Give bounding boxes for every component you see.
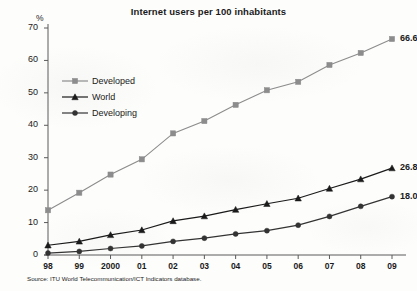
data-point-world — [389, 165, 395, 171]
data-point-developed — [389, 36, 394, 41]
data-point-developed — [45, 208, 50, 213]
legend-swatch-circle-icon — [62, 107, 88, 119]
x-axis-tick-label: 2000 — [101, 261, 120, 271]
y-axis-tick-label: 70 — [14, 22, 38, 32]
x-axis-tick-label: 99 — [75, 261, 84, 271]
data-point-developed — [170, 131, 175, 136]
y-axis-tick-label: 40 — [14, 119, 38, 129]
x-axis-tick-label: 09 — [387, 261, 396, 271]
data-point-developed — [139, 157, 144, 162]
legend-item-developed[interactable]: Developed — [62, 73, 137, 89]
chart-legend: DevelopedWorldDeveloping — [62, 73, 137, 121]
legend-item-developing[interactable]: Developing — [62, 105, 137, 121]
x-axis-tick-label: 02 — [168, 261, 177, 271]
endpoint-label-developed: 66.6 — [400, 33, 417, 43]
chart-figure: Internet users per 100 inhabitants % 010… — [0, 0, 417, 291]
data-point-developing — [108, 246, 113, 251]
source-note: Source: ITU World Telecommunication/ICT … — [27, 275, 201, 282]
x-axis-tick-label: 06 — [293, 261, 302, 271]
x-axis-tick-label: 08 — [356, 261, 365, 271]
endpoint-label-developing: 18.0 — [400, 191, 417, 201]
data-point-developing — [327, 214, 332, 219]
x-axis-tick-label: 98 — [43, 261, 52, 271]
data-point-developing — [264, 228, 269, 233]
x-axis-tick-label: 03 — [200, 261, 209, 271]
plot-area — [0, 0, 417, 291]
data-point-developing — [46, 251, 51, 256]
x-axis-tick-label: 05 — [262, 261, 271, 271]
y-axis-tick-label: 30 — [14, 152, 38, 162]
data-point-developed — [108, 172, 113, 177]
data-point-developing — [171, 239, 176, 244]
data-point-developed — [233, 102, 238, 107]
legend-label: Developing — [92, 108, 137, 118]
data-point-developing — [202, 236, 207, 241]
legend-label: World — [92, 92, 115, 102]
data-point-developing — [233, 231, 238, 236]
data-series-group — [45, 36, 395, 255]
legend-item-world[interactable]: World — [62, 89, 137, 105]
y-axis-tick-label: 20 — [14, 184, 38, 194]
data-point-developing — [358, 204, 363, 209]
data-point-developed — [327, 62, 332, 67]
data-point-developed — [77, 190, 82, 195]
data-point-developed — [202, 118, 207, 123]
data-point-developing — [390, 194, 395, 199]
x-axis-tick-label: 07 — [325, 261, 334, 271]
axes — [44, 24, 406, 259]
x-axis-tick-label: 04 — [231, 261, 240, 271]
data-point-developing — [139, 243, 144, 248]
endpoint-label-world: 26.8 — [400, 162, 417, 172]
legend-label: Developed — [92, 76, 135, 86]
x-axis-tick-label: 01 — [137, 261, 146, 271]
data-point-developed — [358, 50, 363, 55]
y-axis-tick-label: 50 — [14, 87, 38, 97]
data-point-developed — [264, 88, 269, 93]
y-axis-tick-label: 10 — [14, 217, 38, 227]
data-point-developing — [77, 249, 82, 254]
data-point-developing — [296, 223, 301, 228]
series-line-world — [48, 168, 392, 245]
legend-marker — [73, 111, 78, 116]
y-axis-tick-label: 0 — [14, 249, 38, 259]
y-axis-tick-label: 60 — [14, 54, 38, 64]
legend-swatch-triangle-icon — [62, 91, 88, 103]
series-line-developing — [48, 197, 392, 253]
data-point-developed — [296, 79, 301, 84]
legend-marker — [72, 78, 77, 83]
series-line-developed — [48, 39, 392, 210]
legend-swatch-square-icon — [62, 75, 88, 87]
